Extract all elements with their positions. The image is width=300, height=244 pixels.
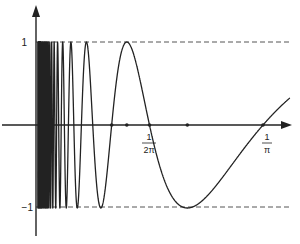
x-label-one-over-pi: 1 π: [262, 132, 272, 155]
axis-point-dot: [110, 123, 114, 127]
x-label-numerator: 1: [264, 132, 269, 142]
x-label-numerator: 1: [146, 132, 151, 142]
y-axis-arrow-icon: [32, 5, 40, 17]
x-label-denominator: π: [264, 145, 270, 155]
y-label-one: 1: [21, 37, 27, 48]
axis-point-dot: [186, 123, 190, 127]
axis-point-dot: [125, 123, 129, 127]
y-label-minus-one: −1: [22, 202, 34, 213]
axis-point-dot: [261, 123, 265, 127]
sin-inverse-x-plot: 1 −1 1 2π 1 π: [0, 0, 300, 244]
x-axis-arrow-icon: [281, 121, 292, 129]
axis-point-dot: [148, 123, 152, 127]
x-label-denominator: 2π: [143, 145, 154, 155]
